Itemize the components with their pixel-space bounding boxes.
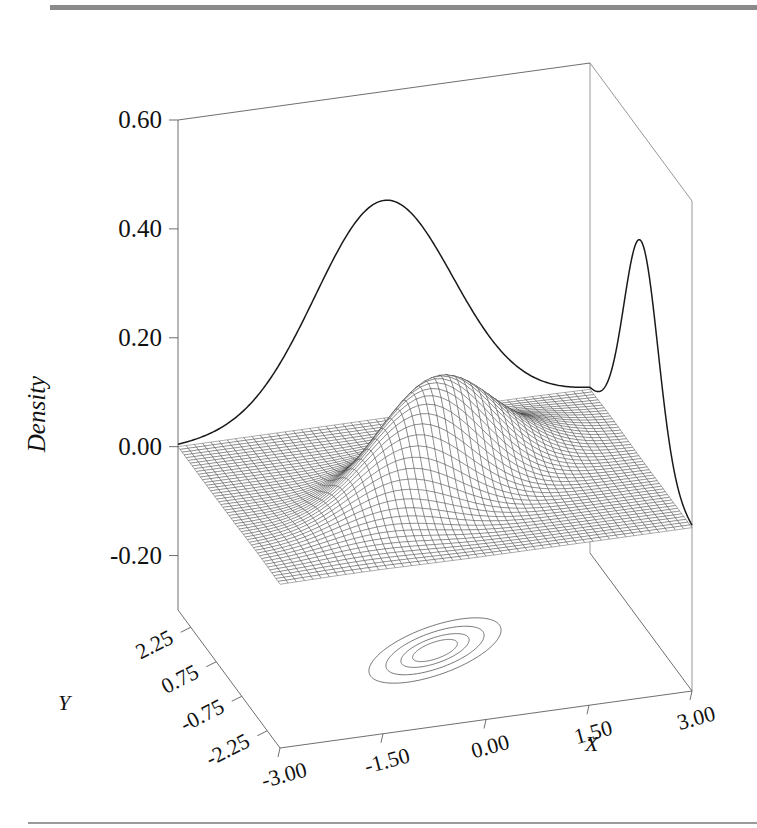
plot-frame-front <box>178 553 692 748</box>
axis-tick-label: -0.75 <box>176 693 228 736</box>
axis-tick-label: -1.50 <box>362 743 413 779</box>
axis-tick-label: 3.00 <box>674 701 718 735</box>
top-rule <box>50 5 757 10</box>
axis-tick-label: 2.25 <box>131 624 177 664</box>
x-axis-title: X <box>585 731 598 757</box>
axis-tick-label: -3.00 <box>259 757 310 793</box>
y-axis-title: Y <box>58 690 70 716</box>
axis-tick-label: 0.75 <box>157 659 203 699</box>
figure-canvas: Density X Y 0.600.400.200.00-0.202.250.7… <box>0 0 757 828</box>
bottom-rule <box>28 822 757 824</box>
contour-plot-group <box>369 618 501 683</box>
axis-tick-label: -2.25 <box>201 728 253 771</box>
axis-tick-label: 0.20 <box>118 324 162 351</box>
z-axis-title: Density <box>23 369 51 459</box>
surface-mesh-group <box>178 375 692 584</box>
axis-tick-label: 0.60 <box>118 106 162 133</box>
axis-tick-label: 0.00 <box>118 433 162 460</box>
axis-tick-label: -0.20 <box>110 542 162 569</box>
axis-tick-label: 0.00 <box>468 729 512 763</box>
axis-tick-label: 0.40 <box>118 215 162 242</box>
surface-plot-svg: 0.600.400.200.00-0.202.250.75-0.75-2.25-… <box>0 0 757 828</box>
